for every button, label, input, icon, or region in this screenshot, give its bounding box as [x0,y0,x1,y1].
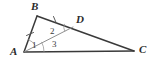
vertex-label-D: D [76,14,84,25]
vertex-label-A: A [10,46,17,57]
angle-label-1: 1 [32,41,37,50]
angle-label-3: 3 [52,40,57,49]
arc-angle-3-icon [42,42,45,52]
vertex-label-B: B [31,1,38,12]
vertex-label-C: C [139,44,146,55]
geometry-figure: A B C D 1 2 3 [0,0,154,65]
segment-AC [24,51,134,52]
figure-canvas [0,0,154,65]
arc-angle-2-icon [64,24,65,32]
angle-label-2: 2 [50,27,55,36]
